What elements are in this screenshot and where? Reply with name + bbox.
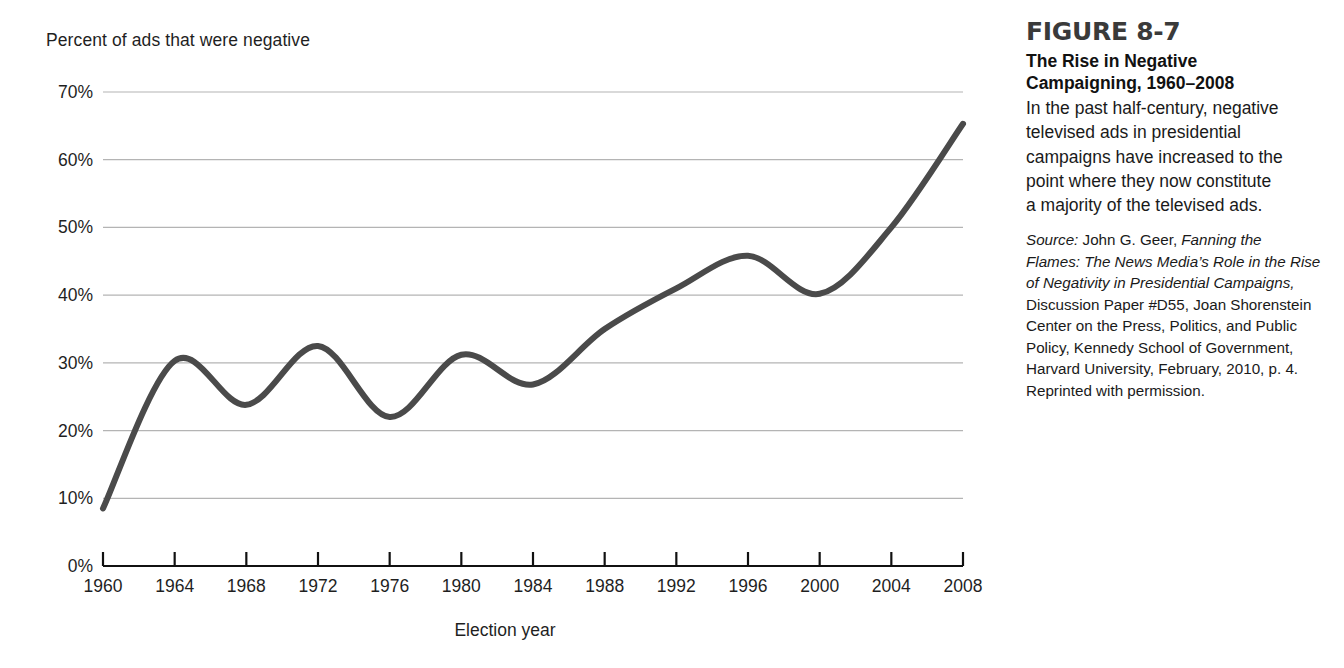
y-tick-label-70%: 70% [25, 82, 93, 103]
figure-description-line-3: campaigns have increased to the [1026, 145, 1344, 169]
source-rest-line-3: Policy, Kennedy School of Government, [1026, 337, 1344, 359]
y-tick-label-20%: 20% [25, 420, 93, 441]
figure-title-line-1: The Rise in Negative [1026, 50, 1344, 72]
figure-page: Percent of ads that were negative Electi… [0, 0, 1344, 668]
y-tick-label-60%: 60% [25, 149, 93, 170]
source-label: Source: [1026, 231, 1078, 248]
x-axis-title: Election year [0, 620, 1010, 641]
figure-description-line-1: In the past half-century, negative [1026, 96, 1344, 120]
figure-title-line-2: Campaigning, 1960–2008 [1026, 72, 1344, 94]
y-tick-label-40%: 40% [25, 285, 93, 306]
figure-description-line-4: point where they now constitute [1026, 169, 1344, 193]
source-rest-line-5: Reprinted with permission. [1026, 380, 1344, 402]
chart-panel: Percent of ads that were negative Electi… [0, 0, 1010, 668]
y-tick-label-0%: 0% [25, 556, 93, 577]
y-tick-label-30%: 30% [25, 352, 93, 373]
figure-title: The Rise in Negative Campaigning, 1960–2… [1026, 50, 1344, 95]
source-title-part-3: of Negativity in Presidential Campaigns, [1026, 272, 1344, 294]
figure-number-heading: FIGURE 8-7 [1026, 18, 1344, 46]
figure-description-line-5: a majority of the televised ads. [1026, 193, 1344, 217]
line-chart-plot [0, 0, 1010, 668]
y-tick-label-10%: 10% [25, 488, 93, 509]
source-rest-line-1: Discussion Paper #D55, Joan Shorenstein [1026, 294, 1344, 316]
y-tick-label-50%: 50% [25, 217, 93, 238]
source-line-1: Source: John G. Geer, Fanning the [1026, 229, 1344, 251]
source-rest-line-2: Center on the Press, Politics, and Publi… [1026, 315, 1344, 337]
source-title-part-1: Fanning the [1181, 231, 1261, 248]
figure-description: In the past half-century, negativetelevi… [1026, 96, 1344, 217]
figure-source-citation: Source: John G. Geer, Fanning the Flames… [1026, 229, 1344, 402]
x-tick-label-2008: 2008 [918, 576, 1008, 597]
source-author: John G. Geer, [1078, 231, 1181, 248]
source-title-part-2: Flames: The News Media’s Role in the Ris… [1026, 251, 1344, 273]
figure-caption-panel: FIGURE 8-7 The Rise in Negative Campaign… [1026, 18, 1344, 658]
data-series-negative-ads [103, 124, 963, 509]
source-rest-line-4: Harvard University, February, 2010, p. 4… [1026, 358, 1344, 380]
figure-description-line-2: televised ads in presidential [1026, 120, 1344, 144]
